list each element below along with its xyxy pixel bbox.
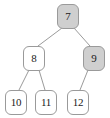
tree-edge-n8-n10	[19, 70, 29, 90]
tree-node-label: 11	[41, 96, 51, 107]
tree-node-9: 9	[83, 46, 105, 71]
tree-node-11: 11	[35, 90, 57, 115]
tree-edge-n7-n9	[74, 28, 90, 46]
tree-node-12: 12	[67, 90, 89, 115]
tree-edge-n8-n11	[39, 70, 45, 90]
tree-node-7: 7	[57, 4, 79, 29]
tree-node-8: 8	[23, 46, 45, 71]
tree-node-10: 10	[5, 90, 27, 115]
tree-edge-n7-n8	[38, 28, 62, 46]
tree-node-label: 12	[73, 96, 84, 107]
tree-node-label: 7	[65, 10, 70, 21]
tree-node-label: 8	[31, 52, 36, 63]
binary-tree-diagram: 789101112	[0, 0, 110, 118]
tree-node-label: 10	[11, 96, 22, 107]
tree-edge-n9-n12	[80, 70, 88, 90]
tree-node-label: 9	[91, 52, 96, 63]
